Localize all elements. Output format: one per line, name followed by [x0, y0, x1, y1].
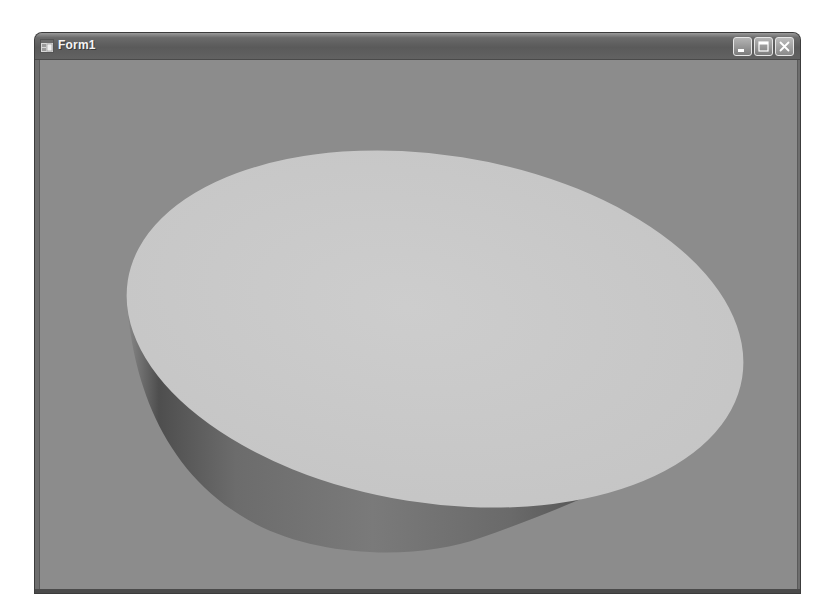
- maximize-icon: [755, 38, 772, 55]
- cylinder-3d-render: [40, 60, 797, 589]
- app-form-icon[interactable]: [40, 39, 54, 53]
- window-bottom-border: [35, 589, 800, 593]
- client-area[interactable]: [39, 60, 798, 589]
- minimize-button[interactable]: [733, 37, 752, 56]
- maximize-button[interactable]: [754, 37, 773, 56]
- close-icon: [776, 38, 793, 55]
- minimize-icon: [734, 38, 751, 55]
- title-bar[interactable]: Form1: [35, 33, 800, 60]
- application-window: Form1: [35, 33, 800, 593]
- window-title: Form1: [58, 38, 96, 52]
- close-button[interactable]: [775, 37, 794, 56]
